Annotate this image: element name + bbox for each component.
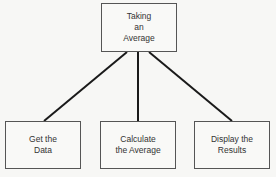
child-node-calculate-average: Calculate the Average	[100, 121, 176, 169]
connector-left	[44, 52, 127, 121]
root-node: Taking an Average	[101, 3, 177, 52]
child-node-display-results: Display the Results	[194, 121, 270, 169]
connector-right	[149, 52, 232, 121]
child-node-get-data: Get the Data	[5, 121, 81, 169]
